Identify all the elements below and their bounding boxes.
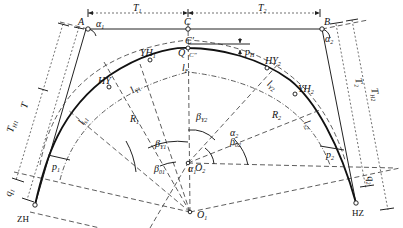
label-lF: lF — [182, 62, 189, 74]
label-alpha2-center: α2 — [230, 127, 238, 139]
label-A: A — [77, 16, 85, 27]
point-HZ — [354, 201, 358, 205]
label-TH1: TH1 — [4, 118, 19, 134]
label-R1: R1 — [129, 113, 139, 125]
label-T2: T2 — [258, 2, 267, 14]
label-lY2: lY2 — [265, 78, 279, 93]
label-HY2: HY2 — [264, 55, 281, 67]
point-B — [320, 27, 324, 31]
label-q2: q2 — [364, 175, 377, 185]
label-T-left: T — [18, 100, 31, 110]
label-B: B — [324, 16, 330, 27]
label-TH2: TH2 — [368, 87, 382, 102]
label-ls1: ls1 — [76, 114, 90, 127]
point-C-prime — [186, 46, 190, 50]
label-pH: pH — [244, 46, 255, 58]
label-Q: Q — [178, 47, 186, 58]
label-HY: HY — [97, 75, 112, 86]
label-C-prime: C′ — [185, 35, 195, 46]
point-YH1 — [148, 58, 152, 62]
label-alpha2: α2 — [325, 33, 333, 45]
point-ZH — [33, 203, 37, 207]
label-C: C — [184, 16, 191, 27]
label-ZH: ZH — [17, 214, 29, 224]
label-betaY1: βY1 — [154, 138, 166, 150]
point-O1 — [188, 210, 192, 214]
label-alpha1: α1 — [96, 18, 104, 30]
label-R2: R2 — [271, 109, 281, 121]
tangent-line-B-HZ — [322, 29, 356, 203]
label-T1: T1 — [133, 2, 142, 14]
point-YH2 — [293, 92, 297, 96]
label-YH1: YH1 — [140, 47, 156, 59]
label-C-dprime: C″ — [189, 51, 197, 59]
label-p1: p1 — [51, 161, 60, 173]
label-T2-right: T2 — [352, 77, 365, 88]
label-O1: O1 — [197, 209, 207, 221]
compound-curve-diagram: T1 T2 TH1 T q1 T2 TH2 q2 — [0, 0, 403, 228]
label-betaY2: βY2 — [195, 111, 207, 123]
label-q1: q1 — [2, 187, 16, 198]
tangent-dimension-lines — [88, 9, 320, 17]
point-HY2 — [265, 66, 269, 70]
label-HZ: HZ — [352, 208, 364, 218]
point-C — [186, 27, 190, 31]
label-O2: O2 — [195, 162, 205, 174]
label-YH2: YH2 — [298, 83, 314, 95]
label-p2: p2 — [325, 149, 334, 161]
label-ls2: ls2 — [301, 118, 315, 131]
point-A — [86, 27, 90, 31]
